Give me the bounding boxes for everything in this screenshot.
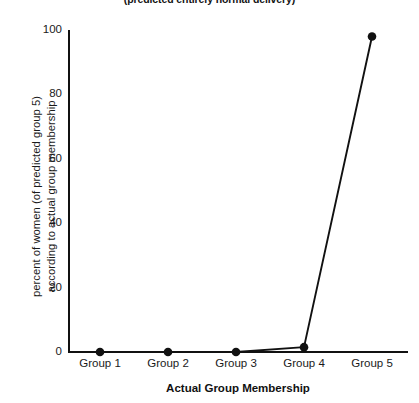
data-point-marker — [164, 348, 173, 357]
x-tick-label: Group 3 — [215, 357, 257, 370]
data-point-marker — [96, 348, 105, 357]
x-tick-label: Group 1 — [79, 357, 121, 370]
x-axis-title: Actual Group Membership — [68, 382, 408, 394]
series-line — [100, 36, 372, 352]
series-markers — [96, 32, 377, 356]
x-axis-tick-labels: Group 1Group 2Group 3Group 4Group 5 — [0, 357, 419, 375]
data-point-marker — [300, 343, 309, 352]
data-point-marker — [368, 32, 377, 41]
chart-data-layer — [0, 0, 419, 403]
x-tick-label: Group 4 — [283, 357, 325, 370]
x-tick-label: Group 2 — [147, 357, 189, 370]
chart-figure: (predicted entirely normal delivery) per… — [0, 0, 419, 403]
data-point-marker — [232, 348, 241, 357]
x-tick-label: Group 5 — [351, 357, 393, 370]
